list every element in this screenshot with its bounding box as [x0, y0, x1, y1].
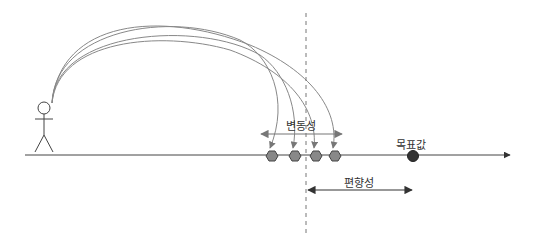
hexagon-icon [289, 151, 301, 161]
bias-label: 편향성 [344, 174, 374, 190]
target-dot [408, 151, 419, 162]
hexagon-icon [329, 151, 341, 161]
variance-label: 변동성 [286, 117, 316, 133]
hexagon-icon [266, 151, 278, 161]
hexagon-icon [310, 151, 322, 161]
variance-bias-diagram [0, 0, 533, 241]
person-icon [35, 102, 53, 152]
shot-markers [266, 151, 341, 161]
target-label: 목표값 [396, 136, 426, 152]
